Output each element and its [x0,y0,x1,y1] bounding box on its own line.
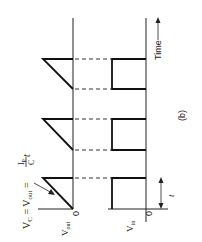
equation-tail: t [21,154,32,157]
equation-label: VC = Vout = [21,182,34,229]
period-label: t [166,194,176,197]
period-double-arrow-icon [159,177,164,209]
figure-label: (b) [177,110,187,121]
pulse-waveform [112,59,146,209]
vin-zero-label: 0 [144,211,154,216]
equation-numerator: IP [17,159,27,165]
timing-diagram: Time t (b) Vout 0 Vin 0 VC = Vout = IP C… [0,0,202,242]
time-arrow-icon [156,17,161,40]
equation-denominator: C [27,160,36,165]
dashed-guides [75,59,111,178]
vout-axis-label: Vout [60,222,71,237]
time-label: Time [153,40,163,60]
equation-pointer-arrow-icon [34,183,55,195]
vin-axis-label: Vin [125,221,136,232]
vout-zero-label: 0 [71,211,81,216]
ramp-waveform [43,59,73,209]
